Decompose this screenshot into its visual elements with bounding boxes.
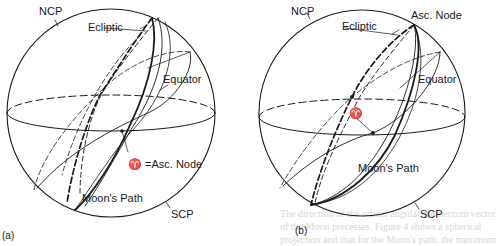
panel-b-tag: (b) xyxy=(295,225,307,236)
panel-a-equator-label: Equator xyxy=(163,73,202,85)
panel-a-node-label: ♈ =Asc. Node xyxy=(128,158,202,170)
panel-b-ecliptic-label: Ecliptic xyxy=(342,20,377,32)
panel-a-tag: (a) xyxy=(2,230,14,241)
panel-a-ecliptic-label: Ecliptic xyxy=(88,21,123,33)
panel-b-equator-label: Equator xyxy=(418,73,457,85)
panel-b-ncp-label: NCP xyxy=(291,5,314,17)
panel-b-scp-label: SCP xyxy=(420,208,443,220)
panel-b-asc-node-label: Asc. Node xyxy=(411,9,462,21)
panel-a-ncp-label: NCP xyxy=(39,5,62,17)
panel-b-moons-path-label: Moon's Path xyxy=(358,162,419,174)
panel-a-moons-path-label: Moon's Path xyxy=(82,192,143,204)
panel-b-aries-label: ♈ xyxy=(349,107,363,119)
panel-a-sphere xyxy=(7,9,215,217)
panel-a-scp-label: SCP xyxy=(171,208,194,220)
